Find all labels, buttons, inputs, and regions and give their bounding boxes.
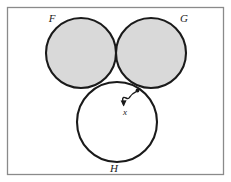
circle-label-h: H — [109, 162, 119, 174]
circle-label-f: F — [48, 12, 56, 24]
venn-diagram-canvas: F G H x — [0, 0, 231, 182]
element-label-x: x — [122, 107, 127, 117]
venn-diagram-figure: F G H x — [0, 0, 231, 182]
circle-label-g: G — [180, 12, 188, 24]
diagram-frame — [8, 8, 224, 175]
